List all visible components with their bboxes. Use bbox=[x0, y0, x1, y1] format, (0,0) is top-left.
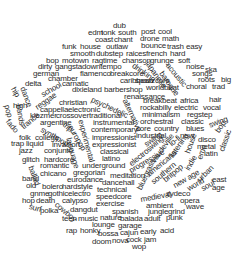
cloud-word: wave bbox=[186, 203, 204, 211]
cloud-word: flamenco bbox=[80, 70, 111, 78]
cloud-word: pop bbox=[2, 104, 13, 118]
cloud-word: choral bbox=[186, 83, 207, 91]
cloud-word: glitch bbox=[22, 156, 39, 164]
cloud-word: calypso bbox=[62, 197, 88, 205]
cloud-word: easy bbox=[186, 43, 202, 51]
cloud-word: nova bbox=[112, 237, 129, 245]
word-cloud: dubedmtonksouthpostcoolcoastchantdronema… bbox=[0, 0, 242, 267]
cloud-word: punk bbox=[166, 214, 183, 222]
cloud-word: acid bbox=[160, 227, 174, 235]
cloud-word: age bbox=[212, 184, 225, 192]
cloud-word: chicano bbox=[40, 170, 66, 178]
cloud-word: trad bbox=[212, 83, 225, 91]
cloud-word: worldbeat bbox=[146, 84, 179, 92]
cloud-word: gangsta bbox=[55, 63, 82, 71]
cloud-word: rap bbox=[66, 227, 77, 235]
cloud-word: doom bbox=[92, 238, 111, 246]
cloud-word: jazz bbox=[19, 147, 32, 155]
cloud-word: conjunto bbox=[44, 147, 73, 155]
cloud-word: dixieland bbox=[72, 86, 102, 94]
cloud-word: wop bbox=[132, 243, 146, 251]
cloud-word: teen bbox=[62, 215, 77, 223]
cloud-word: dangdut bbox=[70, 206, 98, 214]
cloud-word: adult bbox=[144, 215, 160, 223]
